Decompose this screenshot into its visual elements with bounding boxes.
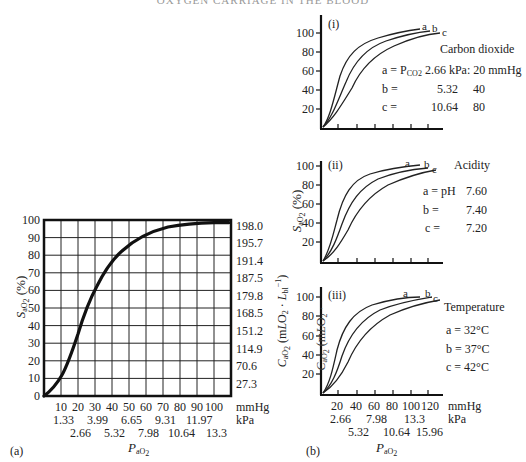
kpa-tick: 10.64: [168, 426, 195, 441]
figure-a-y-axis-title: SaO2 (%): [13, 267, 31, 327]
panel-ii-legend-c-value: 7.20: [466, 221, 487, 236]
panel-ii-label: (ii): [328, 158, 343, 173]
panel-ii-legend-a-key: a = pH: [423, 184, 456, 199]
figure-b-x-axis-title: PaO2: [376, 440, 397, 458]
x-tick: 80: [386, 399, 398, 414]
unit-kpa: kPa: [448, 412, 466, 427]
y2-tick: 168.5: [236, 306, 263, 321]
curve-label-a: a: [403, 287, 408, 299]
kpa-tick: 15.96: [416, 425, 443, 440]
kpa-tick: 13.3: [206, 426, 227, 441]
figure-b-y2-axis-title: CaO2 (mLO2 ·: [314, 289, 331, 389]
y-tick: 20: [290, 367, 314, 382]
panel-iii-legend-a: a = 32°C: [446, 323, 489, 338]
panel-i-legend-c-kpa: 10.64: [420, 100, 458, 115]
curve-label-a: a: [422, 20, 427, 32]
panel-ii-legend-b-value: 7.40: [466, 203, 487, 218]
curve-label-c: c: [432, 163, 437, 175]
y2-tick: 27.3: [236, 377, 257, 392]
panel-i-label: (i): [328, 17, 339, 32]
curve-label-b: b: [425, 287, 431, 299]
curve-label-a: a: [405, 157, 410, 169]
panel-i-legend-a: a = PCO2 2.66 kPa: 20 mmHg: [382, 63, 522, 78]
curve-label-c: c: [433, 292, 438, 304]
y2-tick: 187.5: [236, 271, 263, 286]
y2-tick: 114.9: [236, 342, 263, 357]
panel-iii-legend-b: b = 37°C: [446, 342, 490, 357]
curve-label-c: c: [442, 26, 447, 38]
y2-tick: 70.6: [236, 359, 257, 374]
curve-iii-c: [323, 300, 440, 393]
saturation-curve: [44, 223, 229, 396]
y2-tick: 179.8: [236, 289, 263, 304]
unit-kpa: kPa: [236, 413, 254, 428]
panel-i-legend-b-mmhg: 40: [473, 82, 485, 97]
y-tick: 100: [290, 290, 314, 305]
y2-tick: 151.2: [236, 324, 263, 339]
panel-ii-legend-b-key: b =: [423, 203, 439, 218]
y-tick: 0: [16, 389, 40, 404]
curve-i-a: [323, 29, 420, 127]
y-tick: 90: [16, 231, 40, 246]
kpa-tick: 5.32: [104, 426, 125, 441]
legend-sub: CO2: [407, 69, 422, 78]
legend-value: 2.66 kPa: 20 mmHg: [425, 63, 522, 77]
y2-tick: 195.7: [236, 236, 263, 251]
legend-key: a = P: [382, 63, 407, 77]
kpa-tick: 10.64: [383, 425, 410, 440]
panel-i-legend-c-mmhg: 80: [473, 100, 485, 115]
figure-b-label: (b): [306, 444, 320, 459]
figure-b-y-axis-title: SaO2 (%): [289, 181, 307, 241]
y-tick: 80: [290, 45, 314, 60]
y-tick: 40: [290, 348, 314, 363]
curve-iii-b: [323, 297, 432, 393]
y-tick: 100: [290, 159, 314, 174]
y-tick: 60: [290, 329, 314, 344]
curve-ii-c: [323, 170, 436, 261]
y-tick: 80: [16, 248, 40, 263]
panel-i-title: Carbon dioxide: [440, 42, 514, 57]
y2-tick: 198.0: [236, 219, 263, 234]
panel-iii-legend-c: c = 42°C: [446, 360, 489, 375]
panel-i-legend-b-key: b =: [382, 82, 398, 97]
kpa-tick: 5.32: [348, 425, 369, 440]
panel-i-legend-b-kpa: 5.32: [420, 82, 458, 97]
x-tick: 40: [350, 399, 362, 414]
y-tick: 100: [290, 26, 314, 41]
panel-ii-legend-a-value: 7.60: [466, 184, 487, 199]
curve-label-b: b: [424, 158, 430, 170]
panel-iii-title: Temperature: [444, 300, 504, 315]
curve-label-b: b: [432, 22, 438, 34]
y2-tick: 191.4: [236, 254, 263, 269]
figure-a-label: (a): [10, 444, 23, 459]
y-tick: 20: [16, 354, 40, 369]
y-tick: 40: [290, 83, 314, 98]
panel-ii-legend-c-key: c =: [425, 221, 440, 236]
panel-i-legend-c-key: c =: [382, 100, 397, 115]
y-tick: 60: [290, 64, 314, 79]
y-tick: 100: [16, 213, 40, 228]
panel-iii-label: (iii): [328, 288, 346, 303]
kpa-tick: 2.66: [70, 426, 91, 441]
figure-a-x-axis-title: PaO2: [128, 440, 149, 458]
y-tick: 80: [290, 309, 314, 324]
y-tick: 20: [290, 102, 314, 117]
panel-ii-title: Acidity: [454, 158, 490, 173]
kpa-tick: 7.98: [138, 426, 159, 441]
y-tick: 10: [16, 371, 40, 386]
y-tick: 30: [16, 336, 40, 351]
